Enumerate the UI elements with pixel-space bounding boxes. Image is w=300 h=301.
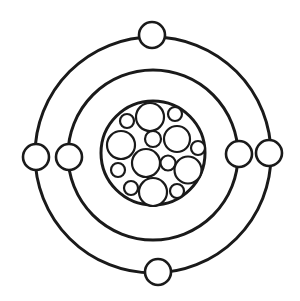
nucleus — [101, 101, 205, 206]
atom-diagram — [0, 0, 300, 301]
electron-left-outer — [23, 144, 49, 170]
electron-right-inner — [226, 141, 252, 167]
nucleon — [161, 156, 176, 171]
nucleon — [124, 181, 138, 195]
nucleon — [111, 163, 125, 177]
nucleon — [168, 107, 182, 121]
nucleon — [191, 141, 205, 155]
electron-top — [139, 22, 165, 48]
electron-left-inner — [56, 144, 82, 170]
electron-bottom — [145, 259, 171, 285]
nucleon — [164, 126, 190, 152]
nucleon — [170, 184, 184, 198]
nucleon — [120, 114, 134, 128]
nucleon — [107, 131, 135, 159]
nucleon — [145, 131, 161, 147]
nucleon — [175, 157, 202, 184]
nucleon — [136, 103, 164, 131]
nucleon — [132, 149, 160, 177]
nucleon — [139, 178, 167, 206]
electron-right-outer — [256, 140, 282, 166]
